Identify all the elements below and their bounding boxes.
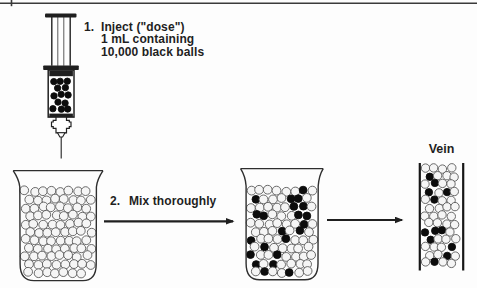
white-ball xyxy=(438,211,446,219)
black-ball xyxy=(51,78,57,84)
plunger-stopper xyxy=(49,71,73,77)
diagram-canvas xyxy=(0,0,477,288)
white-ball xyxy=(83,251,92,260)
white-ball xyxy=(450,220,458,228)
black-ball xyxy=(290,203,298,211)
black-ball xyxy=(62,100,68,106)
vein-label: Vein xyxy=(418,142,465,156)
white-ball xyxy=(277,260,286,269)
white-ball xyxy=(81,187,90,196)
white-ball xyxy=(25,195,34,204)
white-ball xyxy=(285,226,294,235)
black-ball xyxy=(62,84,68,90)
middle-beaker-balls xyxy=(246,185,318,277)
dose-mixing-diagram: 1.Inject ("dose") 1 mL containing 10,000… xyxy=(0,0,477,288)
white-ball xyxy=(421,258,429,266)
top-border-rule xyxy=(0,0,477,6)
black-ball xyxy=(285,269,293,277)
white-ball xyxy=(82,236,91,245)
white-ball xyxy=(421,180,429,188)
white-ball xyxy=(452,235,460,243)
white-ball xyxy=(34,211,43,220)
black-ball xyxy=(57,78,63,84)
black-ball xyxy=(58,106,64,112)
white-ball xyxy=(281,203,290,212)
white-ball xyxy=(308,186,317,195)
white-ball xyxy=(38,251,47,260)
white-ball xyxy=(433,172,441,180)
black-ball xyxy=(65,92,71,98)
black-ball xyxy=(260,212,268,220)
white-ball xyxy=(59,212,68,221)
white-ball xyxy=(24,267,33,276)
white-ball xyxy=(39,220,48,229)
white-ball xyxy=(69,210,78,219)
white-ball xyxy=(442,235,450,243)
plunger-cap xyxy=(45,13,77,17)
white-ball xyxy=(447,259,455,267)
white-ball xyxy=(43,228,52,237)
black-ball xyxy=(261,268,269,276)
white-ball xyxy=(448,164,456,172)
white-ball xyxy=(64,186,73,195)
black-ball xyxy=(432,227,439,234)
black-ball xyxy=(282,235,290,243)
black-ball xyxy=(303,212,311,220)
white-ball xyxy=(259,260,268,269)
white-ball xyxy=(255,219,264,228)
white-ball xyxy=(304,242,313,251)
black-ball xyxy=(287,195,295,203)
white-ball xyxy=(433,219,441,227)
white-ball xyxy=(78,259,87,268)
white-ball xyxy=(55,251,64,260)
black-ball xyxy=(296,227,304,235)
black-ball xyxy=(253,210,261,218)
black-ball xyxy=(426,173,433,180)
white-ball xyxy=(42,210,51,219)
white-ball xyxy=(47,252,56,261)
white-ball xyxy=(451,202,459,210)
white-ball xyxy=(25,244,34,253)
white-ball xyxy=(87,228,96,237)
black-ball xyxy=(54,85,60,91)
black-ball xyxy=(65,106,71,112)
white-ball xyxy=(30,236,39,245)
white-ball xyxy=(82,219,91,228)
black-ball xyxy=(300,202,308,210)
black-ball xyxy=(427,236,434,243)
white-ball xyxy=(56,236,65,245)
black-ball xyxy=(431,179,438,186)
black-ball xyxy=(51,93,57,99)
black-ball xyxy=(431,196,438,203)
left-beaker xyxy=(13,171,103,281)
white-ball xyxy=(429,164,437,172)
black-ball xyxy=(273,251,281,259)
white-ball xyxy=(82,204,91,213)
white-ball xyxy=(425,218,433,226)
white-ball xyxy=(34,269,43,278)
black-ball xyxy=(55,99,61,105)
white-ball xyxy=(51,194,60,203)
white-ball xyxy=(56,202,65,211)
white-ball xyxy=(34,261,43,270)
black-ball xyxy=(50,106,56,112)
syringe xyxy=(43,13,79,158)
white-ball xyxy=(86,195,95,204)
white-ball xyxy=(277,194,286,203)
black-ball xyxy=(421,229,428,236)
white-ball xyxy=(86,261,95,270)
white-ball xyxy=(68,269,77,278)
white-ball xyxy=(268,210,277,219)
syringe-dose-balls xyxy=(50,78,72,112)
black-ball xyxy=(295,211,303,219)
black-ball xyxy=(438,227,445,234)
white-ball xyxy=(438,179,446,187)
white-ball xyxy=(273,235,282,244)
white-ball xyxy=(42,260,51,269)
white-ball xyxy=(450,187,458,195)
white-ball xyxy=(295,268,304,277)
white-ball xyxy=(20,186,29,195)
white-ball xyxy=(443,203,451,211)
white-ball xyxy=(302,194,311,203)
white-ball xyxy=(421,195,429,203)
